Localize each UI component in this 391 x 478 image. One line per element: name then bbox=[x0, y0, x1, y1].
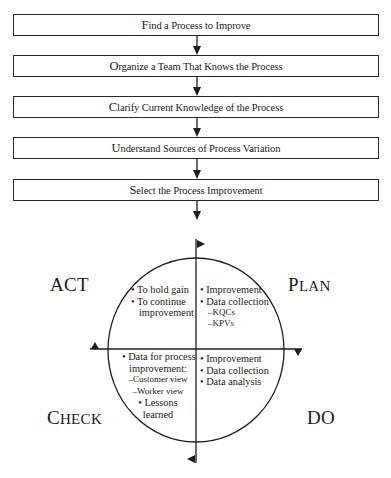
plan-subitem: –KPVs bbox=[200, 318, 269, 329]
flag-up-icon bbox=[91, 342, 99, 349]
plan-item: • Improvement bbox=[200, 284, 269, 296]
check-subitem: –Worker view bbox=[122, 386, 194, 398]
down-arrow-icon bbox=[193, 77, 201, 96]
check-subitem: –Customer view bbox=[122, 374, 194, 386]
down-arrow-icon bbox=[193, 118, 201, 137]
plan-subitem: –KQCs bbox=[200, 307, 269, 318]
act-label: ACT bbox=[50, 275, 89, 294]
flag-down-icon bbox=[294, 349, 302, 356]
check-quadrant-text: • Data for process improvement: –Custome… bbox=[122, 351, 194, 421]
do-label: DO bbox=[307, 408, 335, 427]
plan-item: • Data collection bbox=[200, 296, 269, 308]
down-arrow-icon bbox=[193, 159, 201, 179]
check-item: improvement: bbox=[122, 363, 194, 375]
flag-right-icon bbox=[197, 240, 205, 248]
do-item: • Data collection bbox=[200, 365, 269, 377]
check-label: CHECK bbox=[47, 408, 102, 429]
do-item: • Improvement bbox=[200, 353, 269, 365]
check-item: • Lessons bbox=[122, 397, 194, 409]
act-item: • To continue bbox=[131, 296, 194, 308]
do-item: • Data analysis bbox=[200, 376, 269, 388]
down-arrow-icon bbox=[193, 36, 201, 55]
check-item: • Data for process bbox=[122, 351, 194, 363]
do-quadrant-text: • Improvement • Data collection • Data a… bbox=[200, 353, 269, 388]
plan-quadrant-text: • Improvement • Data collection –KQCs –K… bbox=[200, 284, 269, 328]
flag-left-icon bbox=[187, 455, 195, 463]
act-item: improvement bbox=[131, 307, 194, 319]
check-item: learned bbox=[122, 409, 194, 421]
act-item: • To hold gain bbox=[131, 284, 194, 296]
act-quadrant-text: • To hold gain • To continue improvement bbox=[131, 284, 194, 319]
down-arrow-icon bbox=[193, 201, 201, 220]
plan-label: PLAN bbox=[288, 275, 331, 296]
